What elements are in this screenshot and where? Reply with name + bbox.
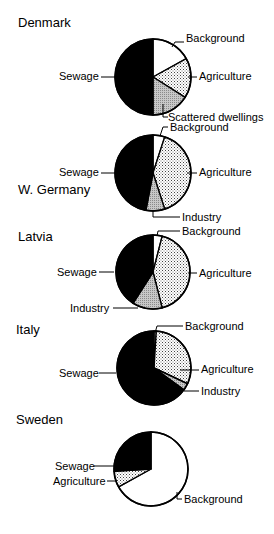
slice-label-background: Background	[186, 32, 245, 44]
slice-label-sewage: Sewage	[55, 460, 95, 472]
chart-title: W. Germany	[18, 182, 91, 197]
slice-label-sewage: Sewage	[57, 266, 97, 278]
slice-label-agriculture: Agriculture	[201, 363, 254, 375]
slice-label-background: Background	[170, 121, 229, 133]
slice-label-industry: Industry	[182, 211, 222, 223]
chart-title: Latvia	[18, 229, 53, 244]
pie-slice-sewage	[115, 39, 153, 115]
pie-chart-italy: ItalyBackgroundAgricultureIndustrySewage	[16, 320, 254, 405]
slice-label-background: Background	[185, 320, 244, 332]
pie-slice-sewage	[114, 432, 151, 471]
pie-chart-latvia: LatviaBackgroundAgricultureIndustrySewag…	[18, 225, 252, 314]
chart-title: Italy	[16, 322, 40, 337]
slice-label-background: Background	[182, 225, 241, 237]
slice-label-agriculture: Agriculture	[199, 267, 252, 279]
chart-title: Denmark	[18, 15, 71, 30]
slice-label-industry: Industry	[70, 302, 110, 314]
slice-label-sewage: Sewage	[59, 166, 99, 178]
pie-chart-denmark: DenmarkBackgroundAgricultureScattered dw…	[18, 15, 264, 123]
slice-label-sewage: Sewage	[59, 70, 99, 82]
chart-title: Sweden	[16, 412, 63, 427]
pie-chart-w-germany: W. GermanyBackgroundAgricultureIndustryS…	[18, 121, 252, 223]
pie-chart-panel: DenmarkBackgroundAgricultureScattered dw…	[0, 0, 274, 534]
pie-slice-sewage	[115, 135, 153, 210]
slice-label-agriculture: Agriculture	[199, 70, 252, 82]
pie-chart-sweden: SwedenSewageAgricultureBackground	[16, 412, 243, 506]
slice-label-agriculture: Agriculture	[199, 166, 252, 178]
slice-label-industry: Industry	[201, 385, 241, 397]
leader-line	[160, 127, 168, 136]
slice-label-agriculture: Agriculture	[53, 475, 106, 487]
slice-label-sewage: Sewage	[59, 367, 99, 379]
slice-label-background: Background	[184, 493, 243, 505]
